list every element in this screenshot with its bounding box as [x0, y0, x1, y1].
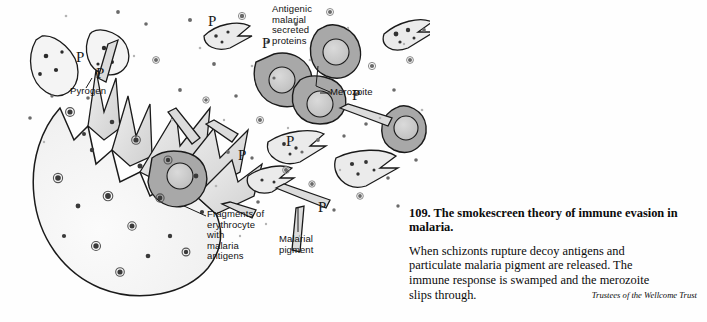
pyrogen-glyph: P [318, 199, 326, 215]
caption-credit: Trustees of the Wellcome Trust [592, 288, 697, 303]
pyrogen-glyph: P [96, 65, 104, 81]
infected-erythrocyte-left [148, 151, 207, 207]
label-pyrogen: Pyrogen [70, 86, 106, 97]
label-malarial-pigment: Malarial pigment [279, 234, 314, 255]
label-fragments-of-erythrocyte: Fragments of erythrocyte with malaria an… [207, 209, 264, 262]
label-antigenic-malarial-secreted-proteins: Antigenic malarial secreted proteins [272, 4, 312, 46]
pyrogen-glyph: P [208, 13, 216, 29]
caption-line-3: immune response is swamped and the meroz… [409, 273, 649, 287]
caption-body: When schizonts rupture decoy antigens an… [409, 244, 697, 302]
pyrogen-glyph: P [262, 35, 270, 51]
pyrogen-glyph: P [286, 133, 294, 149]
caption-line-4: slips through. [409, 288, 476, 303]
caption-body-text: When schizonts rupture decoy antigens an… [409, 244, 697, 302]
infected-erythrocyte-right [382, 106, 426, 152]
caption-title: 109. The smokescreen theory of immune ev… [409, 206, 697, 235]
figure-page: P P P P P P P P Antigenic malarial secre… [0, 0, 707, 322]
malaria-smokescreen-illustration: P P P P P P P P [0, 0, 430, 322]
figure-caption: 109. The smokescreen theory of immune ev… [409, 206, 697, 302]
label-merozoite: Merozoite [330, 87, 373, 98]
caption-line-1: When schizonts rupture decoy antigens an… [409, 244, 625, 258]
pyrogen-glyph: P [238, 147, 246, 163]
pyrogen-glyph: P [76, 49, 84, 65]
caption-line-2: particulate malaria pigment are released… [409, 258, 632, 272]
